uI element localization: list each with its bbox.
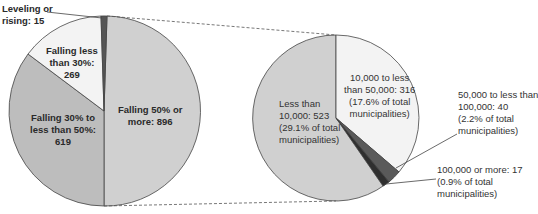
label-line: less than 50%:: [30, 124, 96, 136]
connector-bottom: [104, 201, 336, 206]
label-line: municipalities): [437, 188, 523, 200]
label-line: 10,000: 523: [279, 110, 340, 122]
label-line: municipalities): [458, 125, 538, 137]
leader-line-leveling: [47, 12, 102, 18]
label-less-than-10000: Less than 10,000: 523 (29.1% of total mu…: [279, 98, 340, 146]
label-line: Falling 30% to: [30, 112, 96, 124]
leader-line-100000: [386, 179, 436, 184]
label-line: 50,000 to less than: [458, 89, 538, 101]
label-line: 269: [46, 69, 98, 81]
label-line: than 30%:: [46, 57, 98, 69]
label-line: (2.2% of total: [458, 113, 538, 125]
label-falling-50-or-more: Falling 50% or more: 896: [118, 104, 182, 128]
label-100000-or-more: 100,000 or more: 17 (0.9% of total munic…: [437, 164, 523, 200]
label-line: (0.9% of total: [437, 176, 523, 188]
label-10000-to-50000: 10,000 to less than 50,000: 316 (17.6% o…: [344, 72, 415, 120]
label-line: more: 896: [118, 116, 182, 128]
label-line: than 50,000: 316: [344, 84, 415, 96]
label-50000-to-100000: 50,000 to less than 100,000: 40 (2.2% of…: [458, 89, 538, 137]
label-line: rising: 15: [2, 15, 53, 27]
label-line: Less than: [279, 98, 340, 110]
label-line: municipalities): [344, 108, 415, 120]
label-line: 100,000: 40: [458, 101, 538, 113]
label-leveling: Leveling or rising: 15: [2, 3, 53, 27]
label-line: Leveling or: [2, 3, 53, 15]
label-line: 100,000 or more: 17: [437, 164, 523, 176]
label-line: Falling 50% or: [118, 104, 182, 116]
label-falling-30-to-50: Falling 30% to less than 50%: 619: [30, 112, 96, 148]
label-line: municipalities): [279, 134, 340, 146]
label-line: (17.6% of total: [344, 96, 415, 108]
label-line: Falling less: [46, 45, 98, 57]
label-falling-less-30: Falling less than 30%: 269: [46, 45, 98, 81]
label-line: (29.1% of total: [279, 122, 340, 134]
label-line: 619: [30, 136, 96, 148]
label-line: 10,000 to less: [344, 72, 415, 84]
